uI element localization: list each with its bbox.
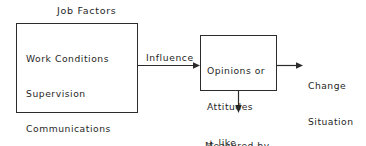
job-factors-title: Job Factors [57,5,116,16]
flow-diagram: Job Factors Work Conditions Supervision … [0,0,366,146]
list-item: Supervision [26,88,142,100]
opinions-line: Opinions or [207,65,265,77]
change-situation-text: Change Situation [308,56,354,146]
measured-by-questions-text: Measured by Questions [205,116,270,146]
change-line: Situation [308,116,354,128]
opinions-line: Attitudes [207,101,265,113]
list-item: Communications [26,123,142,135]
influence-arrow [138,62,200,69]
change-situation-arrow [277,62,303,69]
job-factors-list: Work Conditions Supervision Communicatio… [26,30,142,146]
change-line: Change [308,80,354,92]
influence-arrow-label: Influence [146,52,194,63]
measured-line: Measured by [205,140,270,146]
list-item: Work Conditions [26,53,142,65]
